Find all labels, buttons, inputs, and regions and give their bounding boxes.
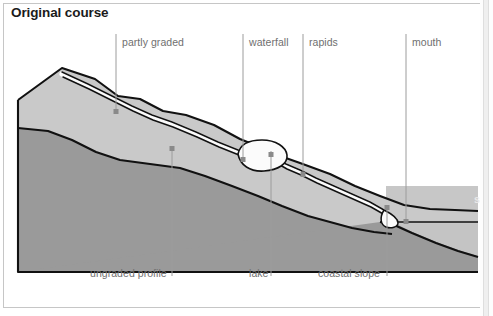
leader-dot-lake <box>269 152 274 157</box>
scrollbar[interactable] <box>480 0 493 316</box>
label-waterfall: waterfall <box>249 36 289 48</box>
leader-dot-ungraded-profile <box>170 146 175 151</box>
label-rapids: rapids <box>309 36 338 48</box>
scrollbar-track[interactable] <box>483 0 489 316</box>
label-mouth: mouth <box>412 36 441 48</box>
leader-dot-rapids <box>301 172 306 177</box>
lake-body <box>238 140 287 171</box>
leader-dot-mouth <box>404 219 409 224</box>
label-ungraded-profile: ungraded profile <box>90 267 167 279</box>
diagram-figure: Original course <box>0 0 493 316</box>
label-coastal-slope: coastal slope <box>318 267 380 279</box>
label-lake: lake <box>249 267 268 279</box>
leader-dot-waterfall <box>241 157 246 162</box>
leader-dot-partly-graded <box>114 109 119 114</box>
label-partly-graded: partly graded <box>122 36 184 48</box>
leader-dot-coastal-slope <box>385 205 390 210</box>
